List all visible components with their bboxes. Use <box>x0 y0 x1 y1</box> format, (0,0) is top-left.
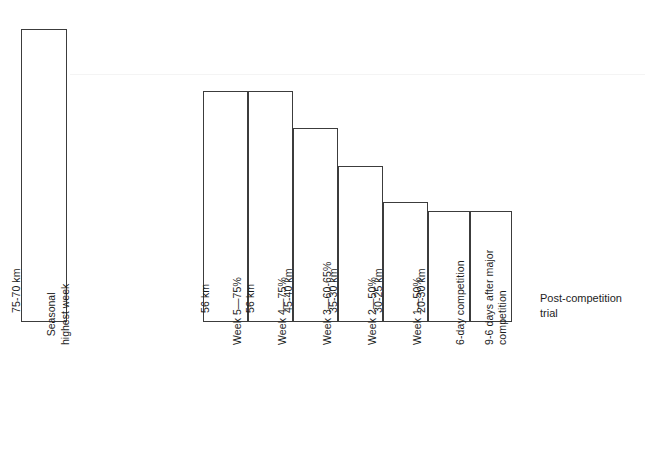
category-label-text: Week 5—75% <box>231 277 243 345</box>
bar-value-week-4: 56 km <box>244 284 256 313</box>
category-label-line-2: highest week <box>59 284 71 345</box>
bar-seasonal-highest-week: 75-70 km <box>21 29 67 322</box>
category-label-line-2: competition <box>496 250 509 345</box>
category-label-nine-six-days-after: 9-6 days after major competition <box>470 345 512 470</box>
category-label-week-3: Week 3—60-65% <box>293 345 338 455</box>
post-competition-trial-annotation: Post-competition trial <box>540 291 622 321</box>
tapering-bar-chart: 75-70 km Seasonal highest week 56 km Wee… <box>0 0 654 472</box>
category-label-week-2: Week 2—50% <box>338 345 383 455</box>
scan-artifact-line <box>70 74 645 75</box>
bar-value-six-day-competition: 20-30 km <box>415 268 427 313</box>
category-label-week-4: Week 4—75% <box>248 345 293 455</box>
category-label-line-1: Seasonal <box>45 292 57 336</box>
bar-value-seasonal-highest-week: 75-70 km <box>10 268 22 313</box>
annotation-line-2: trial <box>540 307 558 319</box>
annotation-line-1: Post-competition <box>540 292 622 304</box>
bar-value-week-5: 56 km <box>199 284 211 313</box>
bar-value-week-1: 30-25 km <box>371 268 383 313</box>
category-label-week-1: Week 1—50% <box>383 345 428 455</box>
category-label-text: 6-day competition <box>454 260 466 345</box>
bar-value-week-3: 45-40 km <box>281 268 293 313</box>
category-label-week-5: Week 5—75% <box>203 345 248 455</box>
category-label-line-1: 9-6 days after major <box>483 250 495 345</box>
bar-value-week-2: 35-30 km <box>326 268 338 313</box>
category-label-six-day-competition: 6-day competition <box>428 345 470 465</box>
